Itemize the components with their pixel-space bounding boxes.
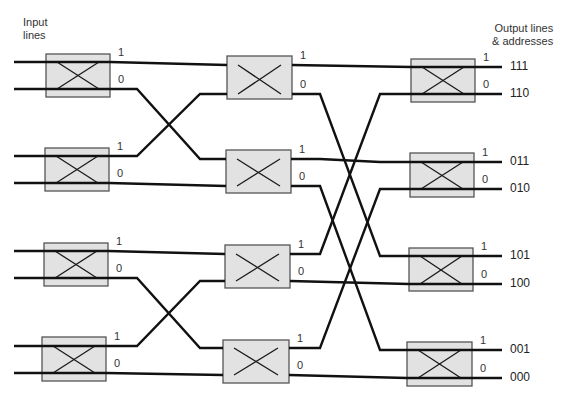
output-address: 100 [510,276,530,290]
port-label-0: 0 [117,167,123,179]
switch-boxes [42,54,475,386]
switch-element [45,148,109,191]
port-label-0: 0 [480,362,486,374]
port-label-0: 0 [297,359,303,371]
switch-element [410,153,474,197]
output-address: 001 [510,342,530,356]
port-label-1: 1 [482,146,488,158]
port-label-0: 0 [481,268,487,280]
output-address: 010 [510,181,530,195]
output-address: 101 [510,248,530,262]
switch-element [42,337,106,381]
port-label-0: 0 [482,173,488,185]
port-label-1: 1 [480,334,486,346]
port-label-0: 0 [300,78,306,90]
port-label-0: 0 [483,78,489,90]
switch-element [407,342,472,386]
switch-element [226,150,291,193]
output-address: 111 [510,59,528,73]
switch-element [227,56,292,99]
port-label-1: 1 [298,238,304,250]
port-label-1: 1 [114,330,120,342]
port-label-0: 0 [118,73,124,85]
wires [14,62,502,378]
port-label-1: 1 [300,49,306,61]
port-label-0: 0 [299,170,305,182]
port-label-0: 0 [114,357,120,369]
port-label-1: 1 [118,46,124,58]
port-label-1: 1 [116,235,122,247]
port-label-1: 1 [483,51,489,63]
switch-element [225,245,290,288]
output-address: 110 [510,86,529,100]
port-label-1: 1 [299,143,305,155]
switch-element [44,243,108,286]
switch-element [46,54,110,97]
port-label-0: 0 [298,265,304,277]
switch-element [223,340,289,383]
output-address: 011 [510,154,529,168]
port-label-1: 1 [297,332,303,344]
port-label-1: 1 [481,240,487,252]
output-address: 000 [510,370,530,384]
port-label-1: 1 [117,140,123,152]
port-label-0: 0 [116,262,122,274]
switch-element [411,59,475,102]
